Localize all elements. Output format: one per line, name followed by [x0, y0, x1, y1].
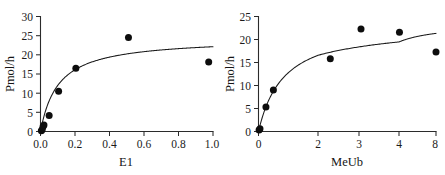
- x-tick-label-1p0: 1.0: [205, 138, 220, 150]
- fit-curve-e1: [41, 47, 214, 132]
- data-point: [55, 88, 62, 95]
- y-tick-label-5: 5: [27, 107, 33, 119]
- x-tick-label-0p6: 0.6: [137, 138, 152, 150]
- fit-curve-meub: [259, 33, 437, 131]
- data-point: [40, 121, 47, 128]
- axes-meub: [259, 17, 437, 132]
- y-tick-label-10: 10: [240, 80, 252, 92]
- x-ticks-meub: [259, 132, 437, 137]
- data-point: [46, 112, 53, 119]
- x-tick-label-3: 3: [356, 138, 362, 150]
- data-point: [205, 59, 212, 66]
- y-tick-labels-meub: 25 20 15 10 5 0: [240, 11, 252, 138]
- data-points-meub: [256, 25, 440, 133]
- y-tick-label-0: 0: [27, 126, 33, 138]
- x-tick-labels-e1: 0.0 0.2 0.4 0.6 0.8 1.0: [33, 138, 219, 150]
- x-ticks-e1: [41, 132, 214, 137]
- y-axis-title-meub: Pmol/h: [223, 55, 237, 92]
- chart-panel-meub: 25 20 15 10 5 0 0 2 3 4 8 MeUb Pmol/h: [222, 0, 445, 175]
- y-ticks-meub: [254, 17, 259, 132]
- axis-spines-meub: [259, 17, 437, 132]
- x-tick-labels-meub: 0 2 3 4 8: [256, 138, 439, 150]
- figure-container: 30 25 20 15 10 5 0 0.0 0.2 0.4 0.6 0.8 1…: [0, 0, 445, 175]
- y-tick-label-25: 25: [22, 30, 34, 42]
- y-ticks-e1: [36, 17, 41, 132]
- x-tick-label-4: 4: [396, 138, 402, 150]
- x-tick-label-0p8: 0.8: [171, 138, 186, 150]
- y-tick-label-5: 5: [245, 103, 251, 115]
- x-axis-title-meub: MeUb: [331, 155, 363, 169]
- x-tick-label-0p0: 0.0: [33, 138, 48, 150]
- y-tick-label-15: 15: [22, 68, 34, 80]
- data-point: [433, 48, 440, 55]
- data-point: [256, 125, 263, 132]
- data-point: [358, 25, 365, 32]
- x-tick-label-0p4: 0.4: [102, 138, 117, 150]
- data-point: [327, 55, 334, 62]
- data-point: [125, 34, 132, 41]
- x-tick-label-0p2: 0.2: [68, 138, 83, 150]
- x-tick-label-0: 0: [256, 138, 262, 150]
- y-tick-label-0: 0: [245, 126, 251, 138]
- data-point: [396, 29, 403, 36]
- y-tick-label-20: 20: [240, 34, 252, 46]
- axes-e1: [41, 17, 214, 132]
- chart-svg-meub: 25 20 15 10 5 0 0 2 3 4 8 MeUb Pmol/h: [222, 0, 445, 175]
- axis-spines-e1: [41, 17, 214, 132]
- y-axis-title-e1: Pmol/h: [3, 55, 17, 92]
- y-tick-label-15: 15: [240, 57, 252, 69]
- chart-panel-e1: 30 25 20 15 10 5 0 0.0 0.2 0.4 0.6 0.8 1…: [0, 0, 222, 175]
- x-axis-title-e1: E1: [119, 155, 133, 169]
- y-tick-label-25: 25: [240, 11, 252, 23]
- y-tick-labels-e1: 30 25 20 15 10 5 0: [22, 11, 34, 138]
- data-point: [262, 104, 269, 111]
- data-point: [72, 65, 79, 72]
- data-point: [270, 87, 277, 94]
- x-tick-label-2: 2: [315, 138, 321, 150]
- y-tick-label-10: 10: [22, 88, 34, 100]
- y-tick-label-20: 20: [22, 49, 34, 61]
- chart-svg-e1: 30 25 20 15 10 5 0 0.0 0.2 0.4 0.6 0.8 1…: [0, 0, 222, 175]
- data-points-e1: [38, 34, 212, 134]
- y-tick-label-30: 30: [22, 11, 34, 23]
- x-tick-label-8: 8: [432, 138, 438, 150]
